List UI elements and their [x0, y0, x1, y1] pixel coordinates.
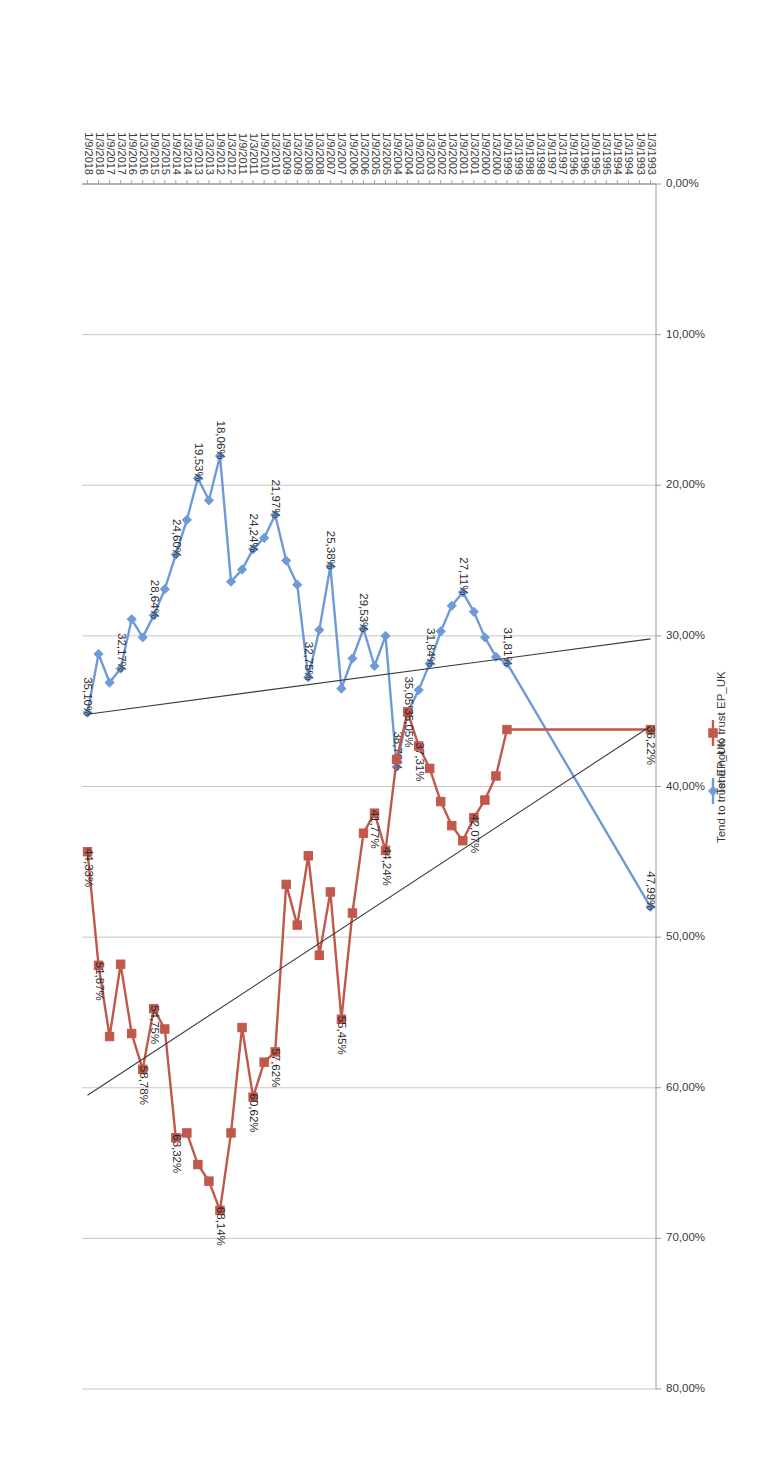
data-label: 32,17% — [116, 633, 128, 672]
data-point — [282, 880, 290, 888]
chart-page: 0,00%10,00%20,00%30,00%40,00%50,00%60,00… — [0, 0, 774, 1481]
data-label: 24,60% — [171, 519, 183, 558]
data-label: 25,38% — [325, 531, 337, 570]
x-tick-label-1/9/2018: 1/9/2018 — [83, 132, 95, 175]
trendline — [88, 726, 651, 1095]
data-point — [326, 888, 334, 896]
data-label: 37,31% — [414, 742, 426, 781]
data-label: 47,99% — [645, 871, 657, 910]
y-tick-label: 30,00% — [666, 629, 705, 641]
data-point — [448, 821, 456, 829]
data-label: 32,75% — [303, 642, 315, 681]
data-point — [359, 829, 367, 837]
y-tick-label: 60,00% — [666, 1081, 705, 1093]
data-label: 24,24% — [248, 514, 260, 553]
data-point — [204, 496, 213, 505]
data-point — [282, 556, 291, 565]
data-label: 29,53% — [358, 593, 370, 632]
data-point — [437, 797, 445, 805]
data-point — [304, 852, 312, 860]
data-point — [127, 1029, 135, 1037]
data-point — [348, 909, 356, 917]
data-point — [492, 772, 500, 780]
data-point — [315, 951, 323, 959]
data-point — [183, 1129, 191, 1137]
data-label: 68,14% — [215, 1207, 227, 1246]
percentage-axis: 0,00%10,00%20,00%30,00%40,00%50,00%60,00… — [656, 177, 705, 1394]
data-label: 55,45% — [336, 1016, 348, 1055]
data-label: 31,81% — [502, 628, 514, 667]
data-point — [293, 580, 302, 589]
data-label: 35,05% — [403, 708, 415, 747]
chart-figure: 0,00%10,00%20,00%30,00%40,00%50,00%60,00… — [0, 0, 774, 1481]
legend-label-distrust[interactable]: Tend not to trust EP_UK — [715, 671, 727, 795]
data-point — [227, 1129, 235, 1137]
data-label: 51,87% — [94, 962, 106, 1001]
data-point — [392, 755, 400, 763]
data-point — [481, 796, 489, 804]
y-tick-label: 20,00% — [666, 478, 705, 490]
data-point — [238, 1023, 246, 1031]
data-label: 41,77% — [369, 810, 381, 849]
date-category-axis: 1/3/19931/9/19931/3/19941/9/19941/3/1995… — [82, 132, 658, 184]
data-point — [480, 633, 489, 642]
y-tick-label: 40,00% — [666, 780, 705, 792]
data-label: 42,07% — [469, 814, 481, 853]
data-point — [194, 1160, 202, 1168]
chart-canvas: 0,00%10,00%20,00%30,00%40,00%50,00%60,00… — [0, 0, 774, 1481]
data-point — [260, 1058, 268, 1066]
data-label: 44,24% — [381, 847, 393, 886]
data-label: 21,97% — [270, 479, 282, 518]
rotated-chart-wrapper: 0,00%10,00%20,00%30,00%40,00%50,00%60,00… — [0, 0, 774, 1481]
data-label: 54,75% — [149, 1005, 161, 1044]
y-tick-label: 0,00% — [666, 177, 699, 189]
series-tend-not-to-trust-ep-uk: 36,22%42,07%37,31%35,05%44,24%41,77%55,4… — [82, 708, 657, 1246]
data-label: 28,64% — [149, 580, 161, 619]
chart-legend: Tend to trust EP_UKTend not to trust EP_… — [708, 671, 727, 843]
y-tick-label: 10,00% — [666, 328, 705, 340]
data-point — [205, 1177, 213, 1185]
data-point — [348, 654, 357, 663]
data-label: 44,33% — [82, 848, 94, 887]
y-tick-label: 70,00% — [666, 1231, 705, 1243]
data-point — [370, 661, 379, 670]
data-point — [381, 631, 390, 640]
data-label: 27,11% — [458, 557, 470, 595]
data-point — [426, 764, 434, 772]
data-point — [459, 837, 467, 845]
data-point — [503, 725, 511, 733]
data-label: 36,22% — [645, 726, 657, 765]
gridlines — [82, 184, 656, 1389]
data-label: 19,53% — [193, 443, 205, 482]
data-point — [293, 921, 301, 929]
data-label: 58,78% — [138, 1066, 150, 1105]
data-label: 60,62% — [248, 1094, 260, 1133]
data-point — [315, 625, 324, 634]
data-label: 63,32% — [171, 1134, 183, 1173]
y-tick-label: 50,00% — [666, 930, 705, 942]
data-point — [116, 960, 124, 968]
data-label: 18,06% — [215, 421, 227, 460]
y-tick-label: 80,00% — [666, 1382, 705, 1394]
data-label: 35,10% — [82, 677, 94, 716]
data-point — [161, 1025, 169, 1033]
data-label: 31,84% — [425, 628, 437, 667]
data-point — [337, 684, 346, 693]
data-point — [105, 1032, 113, 1040]
data-label: 57,62% — [270, 1048, 282, 1087]
data-point — [94, 649, 103, 658]
data-point — [469, 607, 478, 616]
